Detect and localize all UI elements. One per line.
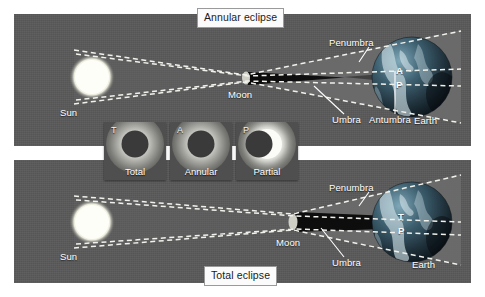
eclipse-diagram: Sun Moon Earth Penumbra Umbra Antumbra A… xyxy=(0,0,485,297)
antumbra-label: Antumbra xyxy=(369,115,411,125)
marker-partial-P: P xyxy=(396,80,402,90)
photo-code-T: T xyxy=(111,125,117,135)
photo-label-annular: Annular xyxy=(170,166,232,177)
photo-total-eclipse: T Total xyxy=(104,122,166,180)
photo-label-total: Total xyxy=(104,166,166,177)
marker-total-T: T xyxy=(398,212,404,222)
umbra-label: Umbra xyxy=(332,258,361,268)
earth-label: Earth xyxy=(414,116,437,126)
photo-code-P: P xyxy=(243,125,249,135)
photo-label-partial: Partial xyxy=(236,166,298,177)
earth-label: Earth xyxy=(412,260,435,270)
caption-annular-eclipse: Annular eclipse xyxy=(197,8,284,28)
photo-annular-eclipse: A Annular xyxy=(170,122,232,180)
umbra-label: Umbra xyxy=(332,115,361,125)
moon-disk xyxy=(188,131,215,158)
moon-label: Moon xyxy=(228,90,252,100)
caption-total-eclipse: Total eclipse xyxy=(204,266,277,286)
marker-partial-P: P xyxy=(398,226,404,236)
marker-annular-A: A xyxy=(396,66,403,76)
sun-label: Sun xyxy=(60,252,77,262)
moon-label: Moon xyxy=(276,238,300,248)
photo-code-A: A xyxy=(177,125,183,135)
sun-core xyxy=(75,205,109,239)
sun-label: Sun xyxy=(60,108,77,118)
moon-body xyxy=(289,214,298,230)
penumbra-label: Penumbra xyxy=(329,38,374,48)
penumbra-label: Penumbra xyxy=(329,183,374,193)
moon-disk xyxy=(122,131,149,158)
eclipse-photo-strip: T Total A Annular P Partial xyxy=(104,122,298,180)
sun-core xyxy=(75,60,109,94)
photo-partial-eclipse: P Partial xyxy=(236,122,298,180)
moon-disk xyxy=(246,131,273,158)
